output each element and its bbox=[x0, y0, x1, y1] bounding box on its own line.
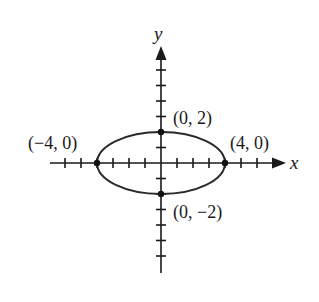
point-0-2-dot bbox=[158, 129, 164, 135]
y-axis-arrow-icon bbox=[156, 46, 167, 60]
y-axis bbox=[156, 56, 166, 273]
point-4-0-dot bbox=[222, 160, 228, 166]
point-label-0-2: (0, 2) bbox=[173, 108, 212, 129]
x-axis-label: x bbox=[289, 152, 299, 173]
point-label-neg4-0: (−4, 0) bbox=[28, 133, 77, 154]
point-neg4-0-dot bbox=[94, 160, 100, 166]
x-axis-arrow-icon bbox=[272, 158, 286, 169]
point-0-neg2-dot bbox=[158, 191, 164, 197]
point-label-4-0: (4, 0) bbox=[230, 133, 269, 154]
x-axis bbox=[50, 158, 276, 168]
y-axis-label: y bbox=[152, 23, 163, 44]
ellipse-diagram: y x (0, 2) (−4, 0) (4, 0) (0, −2) bbox=[0, 0, 319, 302]
point-label-0-neg2: (0, −2) bbox=[173, 202, 222, 223]
